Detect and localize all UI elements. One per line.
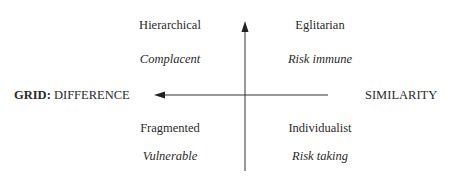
quadrant-top-left-title: Hierarchical: [139, 19, 201, 32]
axis-left-label: GRID: DIFFERENCE: [14, 89, 130, 102]
axis-right-label: SIMILARITY: [365, 89, 437, 102]
quadrant-bottom-right-title: Individualist: [288, 122, 351, 135]
left-arrow-icon: [154, 92, 165, 99]
quadrant-bottom-left-title: Fragmented: [140, 122, 200, 135]
vertical-axis: [242, 21, 249, 171]
up-arrow-icon: [242, 21, 249, 32]
grid-group-diagram: Hierarchical Complacent Eglitarian Risk …: [0, 0, 452, 183]
quadrant-top-right-subtitle: Risk immune: [288, 53, 352, 66]
horizontal-axis: [154, 92, 328, 99]
axis-left-label-text: DIFFERENCE: [54, 88, 130, 102]
quadrant-bottom-right-subtitle: Risk taking: [292, 150, 348, 163]
quadrant-top-right-title: Eglitarian: [295, 19, 344, 32]
axis-left-label-prefix: GRID:: [14, 88, 51, 102]
quadrant-top-left-subtitle: Complacent: [140, 53, 200, 66]
quadrant-bottom-left-subtitle: Vulnerable: [143, 150, 198, 163]
